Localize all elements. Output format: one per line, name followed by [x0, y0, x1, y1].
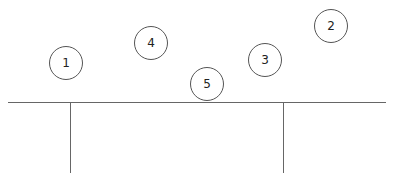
node-label: 3: [261, 53, 269, 67]
node-3: 3: [248, 43, 282, 77]
node-label: 2: [327, 19, 335, 33]
horizontal-beam: [8, 102, 386, 103]
node-4: 4: [134, 26, 168, 60]
node-1: 1: [49, 46, 83, 80]
node-5: 5: [190, 67, 224, 101]
diagram-canvas: 1 2 3 4 5: [0, 0, 395, 184]
node-label: 1: [62, 56, 70, 70]
right-post: [283, 103, 284, 173]
node-2: 2: [314, 9, 348, 43]
left-post: [70, 103, 71, 173]
node-label: 4: [147, 36, 155, 50]
node-label: 5: [203, 77, 211, 91]
